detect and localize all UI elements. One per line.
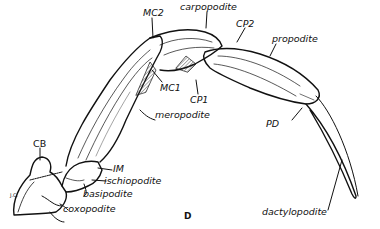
- label-basipodite: basipodite: [83, 189, 133, 199]
- label-cb: CB: [33, 139, 46, 149]
- artist-signature: J.C.: [10, 193, 18, 198]
- label-meropodite: meropodite: [155, 110, 210, 120]
- label-mc1: MC1: [160, 83, 181, 93]
- label-cp2: CP2: [236, 19, 254, 29]
- label-pd: PD: [266, 119, 279, 129]
- figure-letter: D: [184, 212, 191, 221]
- label-dactylopodite: dactylopodite: [262, 207, 327, 217]
- label-propodite: propodite: [272, 34, 318, 44]
- label-cp1: CP1: [190, 95, 208, 105]
- label-ischiopodite: ischiopodite: [104, 176, 161, 186]
- label-coxopodite: coxopodite: [63, 204, 116, 214]
- crustacean-leg-diagram: MC2 carpopodite CP2 propodite MC1 CP1 me…: [0, 0, 380, 229]
- label-carpopodite: carpopodite: [180, 2, 237, 12]
- label-mc2: MC2: [143, 8, 164, 18]
- label-im: IM: [113, 164, 124, 174]
